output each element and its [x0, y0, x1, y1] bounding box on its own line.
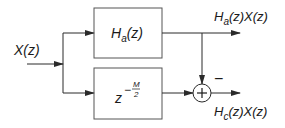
minus-sign: −: [214, 70, 223, 87]
svg-text:z: z: [114, 90, 122, 106]
block-ha-label: Ha(z): [111, 25, 143, 44]
svg-text:−: −: [124, 83, 131, 97]
output-bottom-label: Hc(z)X(z): [214, 104, 267, 122]
svg-text:2: 2: [133, 90, 139, 99]
delay-block-label: z − M 2: [114, 80, 140, 106]
svg-text:M: M: [133, 80, 140, 89]
input-label: X(z): [13, 42, 40, 58]
output-top-label: Ha(z)X(z): [214, 9, 268, 27]
summing-junction: [193, 84, 211, 102]
top-output-line: [162, 33, 240, 84]
block-diagram: X(z) Ha(z) z − M 2 Ha(z)X(z) − Hc(z)X(z): [0, 0, 285, 128]
